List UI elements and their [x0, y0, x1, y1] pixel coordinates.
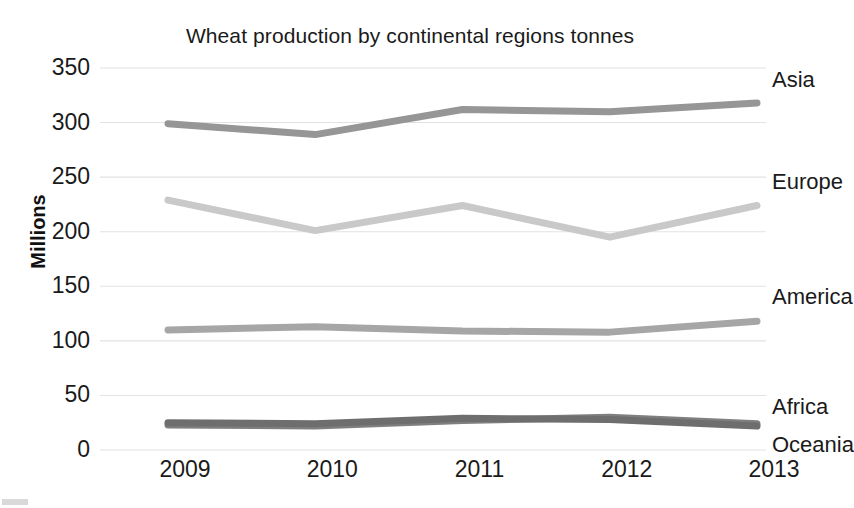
series-label-oceania: Oceania: [772, 434, 854, 456]
y-tick-label: 150: [30, 274, 90, 297]
series-label-america: America: [772, 286, 853, 308]
y-tick-label: 300: [30, 111, 90, 134]
y-tick-label: 200: [30, 220, 90, 243]
y-tick-label: 250: [30, 165, 90, 188]
series-line-asia: [168, 103, 757, 135]
bottom-strip: [0, 496, 841, 508]
x-tick-label-2009: 2009: [130, 458, 240, 481]
series-line-america: [168, 321, 757, 332]
y-tick-label: 50: [30, 383, 90, 406]
y-tick-label: 0: [30, 438, 90, 461]
series-lines: [168, 103, 757, 426]
y-tick-label: 350: [30, 56, 90, 79]
series-label-africa: Africa: [772, 396, 828, 418]
series-label-asia: Asia: [772, 69, 815, 91]
bottom-strip-mark: [2, 499, 28, 505]
x-tick-label-2011: 2011: [425, 458, 535, 481]
x-tick-label-2010: 2010: [277, 458, 387, 481]
x-tick-label-2012: 2012: [572, 458, 682, 481]
series-label-europe: Europe: [772, 171, 843, 193]
x-tick-label-2013: 2013: [719, 458, 829, 481]
y-tick-label: 100: [30, 329, 90, 352]
